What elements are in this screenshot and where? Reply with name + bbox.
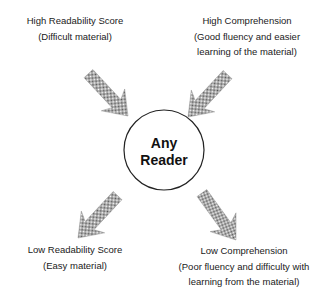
node-subtitle: (Poor fluency and difficulty with <box>179 261 310 272</box>
diagram-canvas: High Readability Score (Difficult materi… <box>0 0 328 302</box>
node-subtitle: learning of the material) <box>197 46 297 57</box>
node-top-right: High Comprehension (Good fluency and eas… <box>194 15 300 57</box>
node-subtitle: (Good fluency and easier <box>194 31 300 42</box>
node-title: High Readability Score <box>27 15 124 26</box>
arrow-center-to-bottom-left-icon <box>66 185 129 249</box>
node-title: Low Comprehension <box>200 245 287 256</box>
node-subtitle: learning from the material) <box>189 276 300 287</box>
center-label-line2: Reader <box>140 152 188 168</box>
node-title: Low Readability Score <box>28 244 123 255</box>
center-label-line1: Any <box>151 135 178 151</box>
node-subtitle: (Easy material) <box>43 260 107 271</box>
arrow-center-to-bottom-right-icon <box>189 184 249 250</box>
node-bottom-left: Low Readability Score (Easy material) <box>28 244 123 271</box>
node-top-left: High Readability Score (Difficult materi… <box>27 15 124 42</box>
arrow-top-left-to-center-icon <box>77 63 140 127</box>
node-bottom-right: Low Comprehension (Poor fluency and diff… <box>179 245 310 287</box>
center-node: Any Reader <box>124 110 204 190</box>
node-title: High Comprehension <box>202 15 291 26</box>
node-subtitle: (Difficult material) <box>38 31 112 42</box>
